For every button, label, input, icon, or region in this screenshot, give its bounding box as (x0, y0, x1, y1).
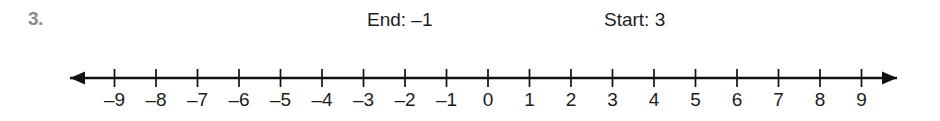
tick-label: –7 (187, 90, 208, 109)
tick-label: –2 (394, 90, 415, 109)
axis-arrow-right-icon (882, 72, 897, 85)
tick-label: –5 (270, 90, 291, 109)
tick-labels-row: –9–8–7–6–5–4–3–2–10123456789 (0, 90, 940, 116)
tick-label: 1 (524, 90, 535, 109)
tick-label: –8 (145, 90, 166, 109)
tick-label: 9 (856, 90, 867, 109)
tick-label: 7 (773, 90, 784, 109)
tick-label: –1 (436, 90, 457, 109)
tick-label: –3 (353, 90, 374, 109)
axis-arrow-left-icon (70, 72, 85, 85)
tick-label: 0 (483, 90, 494, 109)
tick-label: 5 (690, 90, 701, 109)
worksheet-problem-item: 3. End: –1 Start: 3 –9–8–7–6–5–4–3–2–101… (0, 0, 940, 121)
tick-label: 4 (649, 90, 660, 109)
tick-label: 8 (815, 90, 826, 109)
number-line: –9–8–7–6–5–4–3–2–10123456789 (0, 0, 940, 121)
tick-label: 2 (566, 90, 577, 109)
tick-label: 3 (607, 90, 618, 109)
tick-label: –6 (228, 90, 249, 109)
tick-label: –4 (311, 90, 332, 109)
tick-label: 6 (732, 90, 743, 109)
axis-group (70, 72, 897, 85)
tick-label: –9 (104, 90, 125, 109)
